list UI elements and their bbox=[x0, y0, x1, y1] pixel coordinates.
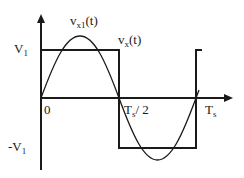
label-v1: V1 bbox=[14, 42, 28, 55]
label-period: Ts bbox=[205, 103, 216, 116]
x-axis-arrow-icon bbox=[224, 94, 233, 102]
label-square: vx(t) bbox=[118, 33, 141, 46]
label-origin: 0 bbox=[44, 103, 51, 116]
y-axis-arrow-icon bbox=[37, 14, 45, 23]
waveform-diagram: V1 -V1 0 Ts/ 2 Ts vx1(t) vx(t) bbox=[0, 0, 244, 178]
label-fundamental: vx1(t) bbox=[70, 14, 98, 27]
label-neg-v1: -V1 bbox=[8, 140, 26, 153]
label-half-period: Ts/ 2 bbox=[124, 103, 149, 116]
waveform-plot bbox=[0, 0, 244, 178]
